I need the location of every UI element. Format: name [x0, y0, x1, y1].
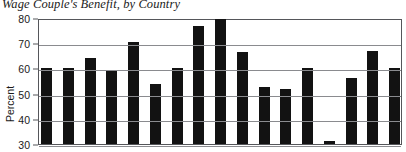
bar	[41, 68, 52, 144]
bar	[280, 89, 291, 144]
bar	[237, 52, 248, 144]
y-tick-label: 30	[18, 139, 30, 151]
gridline	[39, 96, 401, 97]
bar	[193, 26, 204, 144]
bar	[215, 19, 226, 144]
gridline	[39, 45, 401, 46]
y-axis-title: Percent	[4, 74, 16, 134]
bar	[302, 68, 313, 144]
plot-area	[38, 19, 402, 145]
bar	[324, 141, 335, 144]
y-tick-label: 40	[18, 114, 30, 126]
bar	[172, 68, 183, 144]
bar-series	[39, 20, 401, 144]
gridline	[39, 121, 401, 122]
bar	[389, 68, 400, 144]
y-axis: Percent 807060504030	[0, 0, 38, 152]
bar	[367, 51, 378, 144]
y-tick-label: 50	[18, 89, 30, 101]
chart-figure: Wage Couple's Benefit, by Country Percen…	[0, 0, 406, 152]
y-tick-label: 70	[18, 38, 30, 50]
bar	[128, 42, 139, 144]
bar	[150, 84, 161, 144]
y-tick-label: 60	[18, 63, 30, 75]
bar	[63, 68, 74, 144]
bar	[106, 71, 117, 144]
bar	[346, 78, 357, 144]
chart-title: Wage Couple's Benefit, by Country	[2, 0, 302, 12]
gridline	[39, 146, 401, 147]
y-tick-label: 80	[18, 13, 30, 25]
gridline	[39, 70, 401, 71]
